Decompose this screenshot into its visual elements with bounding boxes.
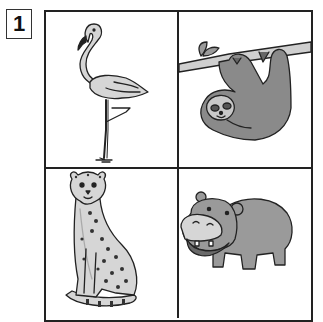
cell-sloth[interactable] xyxy=(179,12,311,167)
question-number: 1 xyxy=(6,9,32,39)
cell-flamingo[interactable] xyxy=(46,12,177,167)
sloth-icon xyxy=(179,12,311,167)
hippopotamus-icon xyxy=(179,169,311,318)
cheetah-icon xyxy=(46,169,177,318)
cell-hippopotamus[interactable] xyxy=(179,169,311,318)
question-number-label: 1 xyxy=(13,11,25,37)
flamingo-icon xyxy=(46,12,177,167)
cell-cheetah[interactable] xyxy=(46,169,177,318)
